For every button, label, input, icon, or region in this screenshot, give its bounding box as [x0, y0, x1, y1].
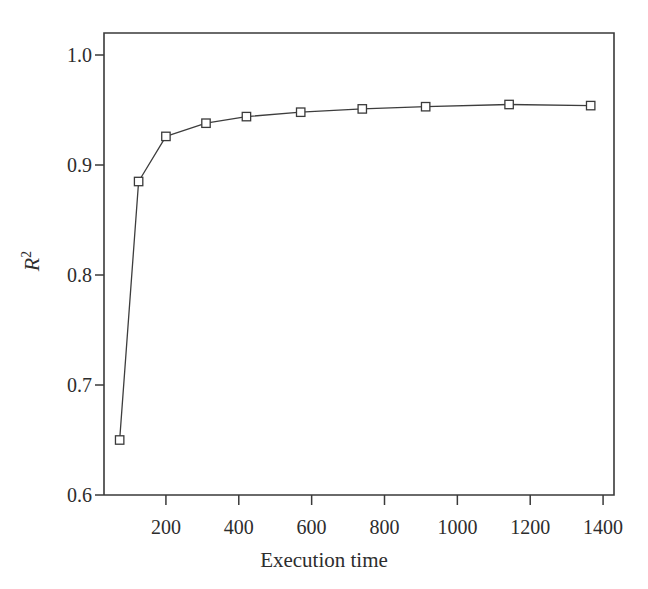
data-point-marker	[358, 105, 366, 113]
data-point-marker	[421, 103, 429, 111]
y-tick-label: 0.7	[30, 375, 92, 395]
ticks-group	[95, 55, 603, 505]
x-tick-label: 1400	[583, 517, 623, 537]
x-tick-label: 400	[224, 517, 254, 537]
y-axis-title-superscript: 2	[19, 251, 34, 258]
x-tick-label: 600	[297, 517, 327, 537]
data-point-marker	[297, 108, 305, 116]
data-point-marker	[162, 132, 170, 140]
data-series-line	[120, 105, 591, 441]
x-tick-label: 200	[151, 517, 181, 537]
x-axis-title: Execution time	[0, 548, 648, 573]
data-point-marker	[505, 100, 513, 108]
data-point-marker	[134, 177, 142, 185]
plot-box-border	[104, 33, 614, 495]
x-tick-label: 1200	[510, 517, 550, 537]
data-point-marker	[586, 101, 594, 109]
x-tick-label: 800	[370, 517, 400, 537]
y-tick-label: 1.0	[30, 45, 92, 65]
x-tick-label: 1000	[437, 517, 477, 537]
data-markers	[115, 100, 594, 444]
y-tick-label: 0.6	[30, 485, 92, 505]
chart-figure: 0.60.70.80.91.0 200400600800100012001400…	[0, 0, 648, 589]
data-point-marker	[202, 119, 210, 127]
y-tick-label: 0.9	[30, 155, 92, 175]
data-point-marker	[242, 112, 250, 120]
y-axis-title: R2	[19, 251, 45, 271]
series-polyline	[120, 105, 591, 441]
plot-area	[0, 0, 648, 589]
data-point-marker	[115, 436, 123, 444]
y-axis-title-text: R	[19, 258, 44, 271]
axes-group	[104, 33, 614, 495]
